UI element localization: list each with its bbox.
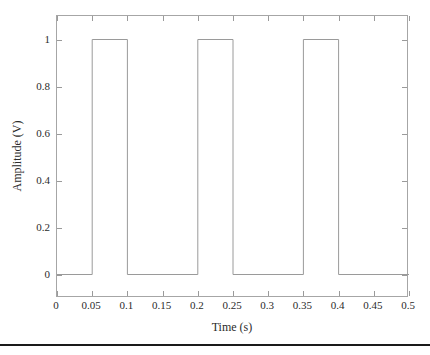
y-tick-right bbox=[402, 87, 407, 88]
x-tick-top bbox=[198, 16, 199, 21]
x-tick-bottom bbox=[92, 291, 93, 296]
y-tick-label: 0.4 bbox=[36, 174, 50, 185]
x-tick-top bbox=[409, 16, 410, 21]
y-axis-title: Amplitude (V) bbox=[11, 121, 23, 192]
square-wave-line bbox=[57, 16, 409, 298]
plot-area bbox=[57, 16, 407, 296]
x-tick-label: 0.15 bbox=[152, 300, 171, 311]
x-tick-bottom bbox=[339, 291, 340, 296]
x-tick-top bbox=[374, 16, 375, 21]
x-tick-top bbox=[339, 16, 340, 21]
y-tick-label: 0 bbox=[45, 268, 51, 279]
x-tick-bottom bbox=[233, 291, 234, 296]
x-tick-bottom bbox=[409, 291, 410, 296]
y-tick-left bbox=[57, 275, 62, 276]
x-tick-top bbox=[57, 16, 58, 21]
bottom-divider-rule bbox=[0, 344, 430, 346]
y-tick-label: 1 bbox=[45, 33, 51, 44]
x-tick-label: 0.35 bbox=[293, 300, 312, 311]
x-tick-bottom bbox=[57, 291, 58, 296]
y-tick-right bbox=[402, 228, 407, 229]
x-tick-label: 0.2 bbox=[190, 300, 204, 311]
y-tick-left bbox=[57, 87, 62, 88]
x-tick-label: 0.25 bbox=[222, 300, 241, 311]
x-tick-label: 0.45 bbox=[363, 300, 382, 311]
x-tick-top bbox=[268, 16, 269, 21]
x-tick-bottom bbox=[127, 291, 128, 296]
x-tick-label: 0.4 bbox=[331, 300, 345, 311]
x-tick-bottom bbox=[374, 291, 375, 296]
x-tick-top bbox=[233, 16, 234, 21]
figure-container: 00.050.10.150.20.250.30.350.40.450.5 00.… bbox=[0, 0, 430, 355]
y-tick-left bbox=[57, 134, 62, 135]
x-tick-label: 0.1 bbox=[120, 300, 134, 311]
y-tick-right bbox=[402, 134, 407, 135]
x-tick-top bbox=[92, 16, 93, 21]
x-tick-bottom bbox=[303, 291, 304, 296]
y-tick-label: 0.2 bbox=[36, 221, 50, 232]
y-tick-label: 0.8 bbox=[36, 80, 50, 91]
plot-box bbox=[56, 15, 408, 297]
x-tick-label: 0 bbox=[53, 300, 59, 311]
x-axis-title: Time (s) bbox=[56, 321, 408, 333]
x-tick-bottom bbox=[163, 291, 164, 296]
x-tick-top bbox=[163, 16, 164, 21]
y-tick-right bbox=[402, 40, 407, 41]
x-tick-top bbox=[127, 16, 128, 21]
x-tick-bottom bbox=[268, 291, 269, 296]
x-tick-label: 0.3 bbox=[260, 300, 274, 311]
x-tick-label: 0.05 bbox=[82, 300, 101, 311]
y-tick-right bbox=[402, 181, 407, 182]
y-tick-left bbox=[57, 228, 62, 229]
x-tick-bottom bbox=[198, 291, 199, 296]
y-tick-left bbox=[57, 181, 62, 182]
x-tick-top bbox=[303, 16, 304, 21]
y-tick-label: 0.6 bbox=[36, 127, 50, 138]
x-tick-label: 0.5 bbox=[401, 300, 415, 311]
y-tick-left bbox=[57, 40, 62, 41]
y-tick-right bbox=[402, 275, 407, 276]
